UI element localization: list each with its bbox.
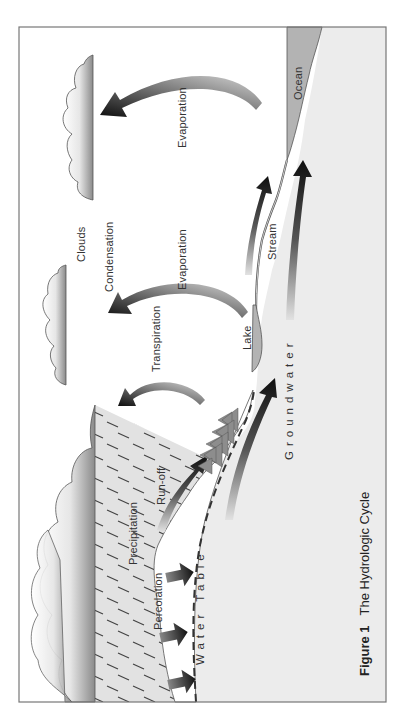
- label-lake: Lake: [241, 325, 253, 350]
- label-stream: Stream: [266, 223, 278, 260]
- label-transpiration: Transpiration: [150, 306, 162, 372]
- caption-number: Figure 1: [357, 625, 372, 676]
- hydrologic-cycle-figure: Clouds Condensation Evaporation Evaporat…: [0, 0, 406, 723]
- label-evaporation-lake: Evaporation: [176, 229, 188, 290]
- label-precipitation: Precipitation: [127, 502, 139, 565]
- cloud-middle: [43, 265, 66, 385]
- label-clouds: Clouds: [75, 227, 87, 262]
- caption-title: The Hydrologic Cycle: [357, 492, 372, 616]
- label-evaporation-ocean: Evaporation: [176, 87, 188, 148]
- label-water-table: Water Table: [194, 549, 206, 665]
- figure-caption: Figure 1The Hydrologic Cycle: [357, 492, 372, 676]
- label-percolation: Percolation: [152, 573, 164, 630]
- label-runoff: Run-off: [155, 468, 167, 505]
- transpiration-arrow: [118, 382, 205, 406]
- label-condensation: Condensation: [103, 222, 115, 292]
- label-groundwater: Groundwater: [283, 339, 295, 460]
- label-ocean: Ocean: [292, 67, 304, 100]
